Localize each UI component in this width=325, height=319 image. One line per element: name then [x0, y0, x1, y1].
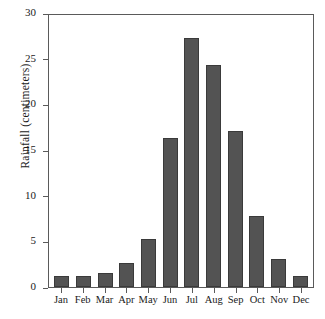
x-tick-mark	[301, 288, 302, 293]
x-tick-label: Feb	[72, 294, 94, 305]
x-tick-label: Jun	[159, 294, 181, 305]
bar-slot	[94, 15, 116, 287]
y-tick-label: 25	[25, 52, 36, 64]
x-tick-label: Dec	[290, 294, 312, 305]
x-tick-mark	[279, 288, 280, 293]
bar	[271, 259, 286, 287]
y-tick-label: 5	[31, 234, 37, 246]
x-tick-mark	[170, 288, 171, 293]
x-tick-label: Jul	[181, 294, 203, 305]
x-tick-mark	[236, 288, 237, 293]
bar-slot	[73, 15, 95, 287]
rainfall-bar-chart: Rainfall (centimeters) 051015202530 JanF…	[0, 0, 325, 319]
y-tick-label: 10	[25, 189, 36, 201]
x-tick-label: Nov	[268, 294, 290, 305]
bar-slot	[224, 15, 246, 287]
y-tick-label: 0	[31, 280, 37, 292]
x-tick-label: Oct	[246, 294, 268, 305]
bar	[249, 216, 264, 287]
bar	[119, 263, 134, 287]
y-tick-label: 20	[25, 97, 36, 109]
x-tick-label: Aug	[203, 294, 225, 305]
x-tick-mark	[61, 288, 62, 293]
bar-series	[49, 15, 313, 287]
bar	[293, 276, 308, 287]
x-tick-mark	[126, 288, 127, 293]
y-axis-title: Rainfall (centimeters)	[19, 16, 31, 216]
bar	[163, 138, 178, 287]
bar	[54, 276, 69, 287]
x-tick-mark	[257, 288, 258, 293]
bar	[206, 65, 221, 287]
bar	[228, 131, 243, 287]
x-tick-mark	[192, 288, 193, 293]
bar	[184, 38, 199, 287]
bar-slot	[138, 15, 160, 287]
bar-slot	[289, 15, 311, 287]
x-tick-mark	[83, 288, 84, 293]
x-tick-label: Sep	[225, 294, 247, 305]
bar-slot	[268, 15, 290, 287]
x-tick-label: Jan	[50, 294, 72, 305]
bar	[98, 273, 113, 287]
x-tick-label: Mar	[94, 294, 116, 305]
x-axis-labels: JanFebMarAprMayJunJulAugSepOctNovDec	[48, 294, 314, 305]
bar-slot	[116, 15, 138, 287]
x-tick-mark	[105, 288, 106, 293]
bar	[76, 276, 91, 287]
bar-slot	[246, 15, 268, 287]
bar-slot	[159, 15, 181, 287]
x-tick-label: Apr	[115, 294, 137, 305]
x-tick-mark	[148, 288, 149, 293]
y-tick-label: 30	[25, 6, 36, 18]
x-tick-mark	[214, 288, 215, 293]
bar-slot	[203, 15, 225, 287]
bar	[141, 239, 156, 287]
bar-slot	[181, 15, 203, 287]
y-tick-label: 15	[25, 143, 36, 155]
plot-area	[48, 14, 314, 288]
bar-slot	[51, 15, 73, 287]
x-tick-label: May	[137, 294, 159, 305]
